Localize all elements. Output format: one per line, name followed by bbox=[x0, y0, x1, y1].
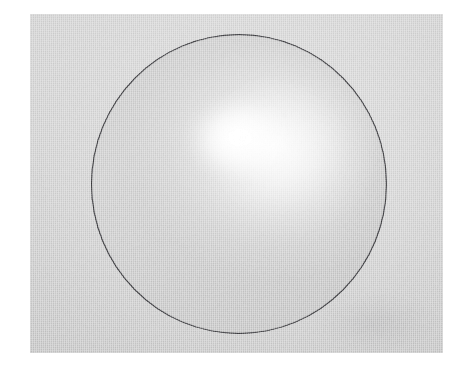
figure-root bbox=[0, 0, 466, 375]
sphere-outline-wrapper bbox=[92, 35, 386, 333]
photograph-plate bbox=[30, 14, 443, 353]
sphere-pencil-outline bbox=[91, 34, 387, 334]
